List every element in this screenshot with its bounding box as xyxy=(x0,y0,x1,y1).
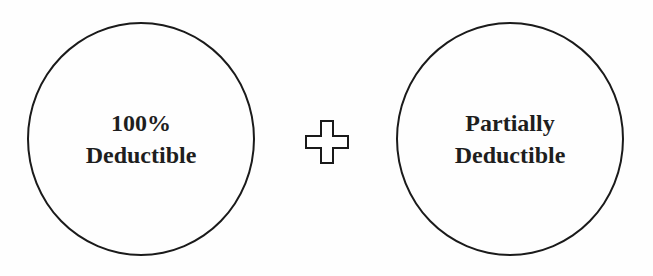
plus-icon xyxy=(304,119,350,165)
circle-label-line2: Deductible xyxy=(86,139,197,171)
circle-label-line1: Partially xyxy=(465,107,554,139)
circle-partially-deductible: Partially Deductible xyxy=(396,22,624,256)
circle-label-line2: Deductible xyxy=(455,139,566,171)
circle-fully-deductible: 100% Deductible xyxy=(27,22,255,256)
circle-label-line1: 100% xyxy=(111,107,171,139)
